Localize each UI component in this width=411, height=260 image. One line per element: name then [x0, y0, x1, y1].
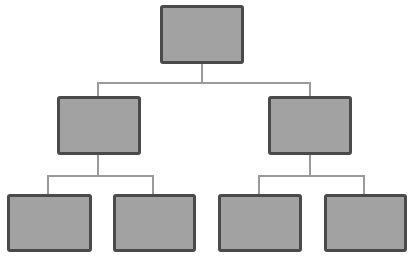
node-level1-right [268, 96, 352, 155]
connector-to-l2-1 [47, 175, 49, 195]
connector-root-stem [201, 63, 203, 84]
connector-level1-bar [97, 82, 311, 84]
org-chart-diagram [0, 0, 411, 260]
connector-right-bar [258, 175, 365, 177]
connector-l1-right-stem [309, 154, 311, 177]
connector-to-l2-4 [363, 175, 365, 195]
connector-l1-left-stem [97, 154, 99, 177]
node-level2-4 [324, 194, 407, 252]
connector-to-l1-left [97, 82, 99, 97]
connector-left-bar [47, 175, 154, 177]
node-level2-1 [7, 194, 92, 252]
node-level1-left [57, 96, 141, 155]
node-level2-3 [218, 194, 302, 252]
connector-to-l2-2 [152, 175, 154, 195]
connector-to-l1-right [309, 82, 311, 97]
node-level2-2 [113, 194, 196, 252]
connector-to-l2-3 [258, 175, 260, 195]
node-root [160, 5, 244, 64]
